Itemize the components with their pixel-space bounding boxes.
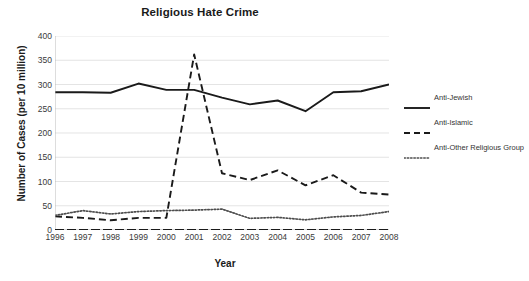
plot-svg: [55, 36, 389, 230]
series-lines: [55, 54, 389, 220]
y-tick-label: 300: [22, 81, 52, 90]
y-axis-title: Number of Cases (per 10 million): [16, 24, 27, 224]
chart-container: Religious Hate Crime Number of Cases (pe…: [0, 0, 529, 281]
chart-legend: Anti-JewishAnti-IslamicAnti-Other Religi…: [404, 92, 529, 167]
series-line-anti-other-religious-group: [55, 209, 389, 220]
legend-label: Anti-Jewish: [434, 94, 472, 102]
y-tick-label: 100: [22, 178, 52, 187]
series-line-anti-islamic: [55, 54, 389, 220]
series-line-anti-jewish: [55, 84, 389, 112]
legend-line-sample: [404, 98, 430, 106]
y-tick-label: 250: [22, 105, 52, 114]
legend-line-sample: [404, 148, 430, 156]
legend-item[interactable]: Anti-Islamic: [404, 117, 529, 142]
legend-line-sample: [404, 123, 430, 131]
legend-item[interactable]: Anti-Other Religious Group: [404, 142, 529, 167]
y-tick-label: 350: [22, 56, 52, 65]
y-tick-label: 400: [22, 32, 52, 41]
x-axis-title: Year: [55, 258, 395, 269]
x-tick-label: 2008: [369, 233, 409, 242]
x-axis-tick-labels: 1996199719981999200020012002200320042005…: [55, 233, 389, 247]
legend-label: Anti-Other Religious Group: [434, 144, 524, 152]
legend-item[interactable]: Anti-Jewish: [404, 92, 529, 117]
legend-label: Anti-Islamic: [434, 119, 473, 127]
gridlines: [55, 36, 389, 230]
chart-title: Religious Hate Crime: [0, 6, 400, 18]
y-tick-label: 150: [22, 153, 52, 162]
y-tick-label: 50: [22, 202, 52, 211]
y-tick-label: 200: [22, 129, 52, 138]
plot-area: [55, 36, 389, 230]
